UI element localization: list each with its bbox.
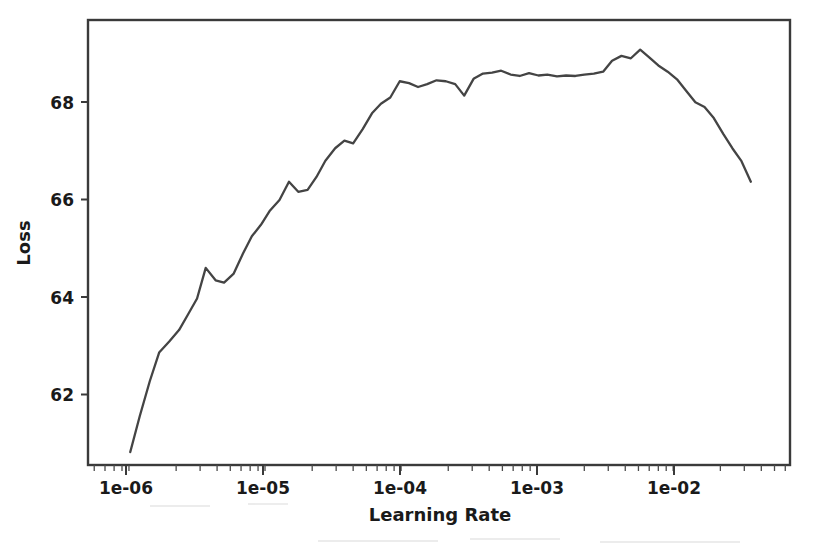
x-axis-tick-labels: 1e-06 1e-05 1e-04 1e-03 1e-02	[99, 478, 701, 498]
y-axis-title: Loss	[13, 220, 34, 265]
loss-curve	[130, 50, 751, 452]
x-tick-label: 1e-02	[647, 478, 701, 498]
y-tick-label: 64	[50, 288, 74, 308]
x-axis-title: Learning Rate	[369, 504, 511, 525]
x-tick-label: 1e-03	[510, 478, 564, 498]
y-tick-label: 62	[50, 385, 74, 405]
y-tick-label: 68	[50, 93, 74, 113]
x-tick-label: 1e-05	[236, 478, 290, 498]
plot-frame	[88, 20, 790, 465]
y-axis-tick-labels: 68 66 64 62	[50, 93, 74, 405]
x-tick-label: 1e-04	[373, 478, 427, 498]
line-chart: 68 66 64 62 1e-06 1e-05 1e-04 1e-03 1e-0…	[0, 0, 816, 550]
y-tick-label: 66	[50, 190, 74, 210]
x-axis-ticks	[126, 465, 674, 475]
figure-canvas: 68 66 64 62 1e-06 1e-05 1e-04 1e-03 1e-0…	[0, 0, 816, 550]
x-tick-label: 1e-06	[99, 478, 153, 498]
